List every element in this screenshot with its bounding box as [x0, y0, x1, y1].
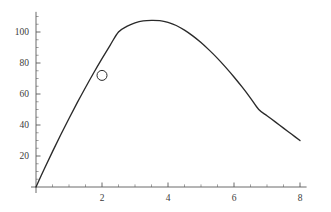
x-tick-labels-group: 2468: [100, 193, 303, 203]
x-tick-label: 4: [166, 193, 171, 203]
y-tick-label: 20: [20, 151, 30, 161]
minor-ticks-group: [36, 17, 284, 188]
plot-canvas: 2468 20406080100: [0, 0, 331, 212]
y-tick-label: 40: [20, 120, 30, 130]
y-tick-label: 80: [20, 58, 30, 68]
x-tick-label: 8: [298, 193, 303, 203]
x-tick-label: 2: [100, 193, 105, 203]
major-ticks-group: [36, 32, 300, 187]
y-tick-labels-group: 20406080100: [15, 27, 30, 161]
highlighted-point-marker[interactable]: [97, 70, 107, 80]
data-curve: [36, 20, 300, 187]
y-tick-label: 60: [20, 89, 30, 99]
chart-figure: 2468 20406080100: [0, 0, 331, 212]
y-tick-label: 100: [15, 27, 30, 37]
x-tick-label: 6: [232, 193, 237, 203]
